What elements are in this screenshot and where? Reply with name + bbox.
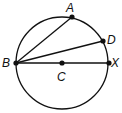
point-C xyxy=(59,60,64,65)
point-B xyxy=(13,60,18,65)
chords xyxy=(16,17,109,63)
point-A xyxy=(69,14,74,19)
points xyxy=(13,14,111,65)
label-B: B xyxy=(2,56,10,70)
label-C: C xyxy=(57,70,66,84)
label-A: A xyxy=(65,1,74,15)
point-D xyxy=(100,38,105,43)
label-D: D xyxy=(107,33,116,47)
label-X: X xyxy=(110,56,120,70)
circle-diagram: A D B C X xyxy=(0,0,122,113)
